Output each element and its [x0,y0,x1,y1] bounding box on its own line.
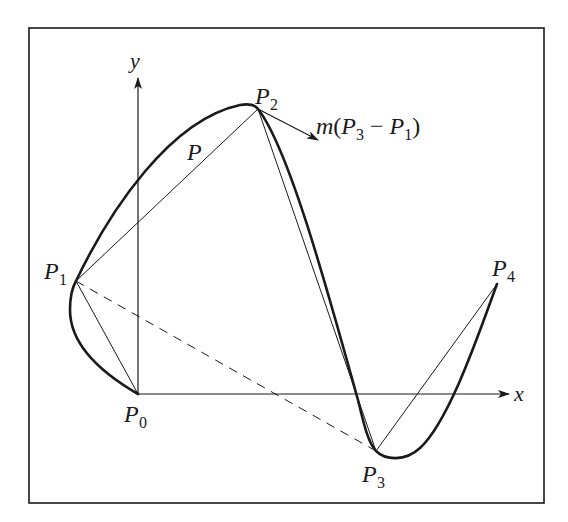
label-p3: P 3 [361,461,385,491]
label-p4: P 4 [491,255,515,285]
svg-text:P: P [361,461,377,487]
svg-text:P: P [491,255,507,281]
svg-text:0: 0 [139,414,147,431]
svg-text:P: P [43,258,59,284]
control-polygon [76,109,497,451]
y-axis-label: y [128,48,140,73]
label-p2: P 2 [254,83,278,113]
figure-frame [29,28,544,503]
spline-diagram: y x P 0 P 1 P 2 P 3 P 4 P m(P3 − P1) [0,0,568,522]
svg-text:P: P [254,83,270,109]
x-axis-label: x [513,381,524,406]
svg-text:2: 2 [270,96,278,113]
svg-text:3: 3 [377,474,385,491]
label-p0: P 0 [123,401,147,431]
svg-text:1: 1 [59,271,67,288]
label-p1: P 1 [43,258,67,288]
curve-label: P [186,139,202,165]
svg-text:m(P3 − P1): m(P3 − P1) [316,113,420,143]
tangent-label: m(P3 − P1) [316,113,420,143]
svg-text:P: P [123,401,139,427]
svg-text:4: 4 [507,268,515,285]
